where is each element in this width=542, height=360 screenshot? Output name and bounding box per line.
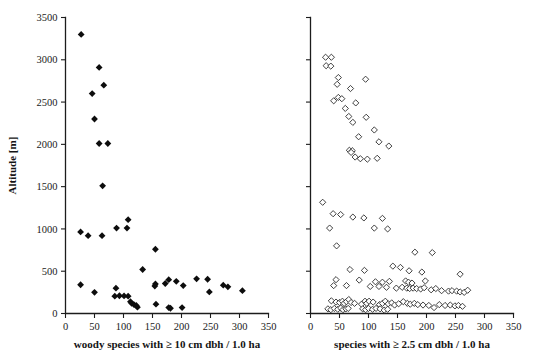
data-point <box>100 82 107 89</box>
data-point <box>371 225 377 231</box>
data-point <box>419 269 425 275</box>
data-point <box>96 64 103 71</box>
data-point <box>353 100 359 106</box>
data-point <box>153 301 160 308</box>
data-point <box>334 243 340 249</box>
data-point <box>327 225 333 231</box>
x-tick-label-0: 0 <box>308 321 313 332</box>
data-point <box>371 127 377 133</box>
data-point <box>173 278 180 285</box>
data-point <box>350 119 356 125</box>
data-point <box>89 90 96 97</box>
data-point <box>99 232 106 239</box>
data-point <box>390 263 396 269</box>
y-tick-label-1: 500 <box>42 266 58 277</box>
data-point <box>333 277 339 283</box>
x-tick-label-4: 200 <box>419 321 435 332</box>
figure-container: 0500100015002000250030003500050100150200… <box>0 0 542 360</box>
data-point <box>180 282 187 289</box>
y-tick-label-3: 1500 <box>37 181 58 192</box>
data-point <box>152 246 159 253</box>
data-point <box>429 250 435 256</box>
x-tick-label-2: 100 <box>116 321 132 332</box>
y-tick-label-5: 2500 <box>37 97 58 108</box>
data-point <box>436 302 442 308</box>
data-point <box>330 211 336 217</box>
data-point <box>364 156 370 162</box>
data-point <box>363 76 369 82</box>
x-tick-label-7: 350 <box>506 321 522 332</box>
y-tick-label-6: 3000 <box>37 54 58 65</box>
data-point <box>383 284 389 290</box>
data-point <box>204 276 211 283</box>
data-point <box>328 63 334 69</box>
data-point <box>343 282 349 288</box>
data-point <box>393 285 399 291</box>
data-point <box>363 114 369 120</box>
data-point <box>331 282 337 288</box>
scatter-figure: 0500100015002000250030003500050100150200… <box>0 0 542 360</box>
data-point <box>77 281 84 288</box>
x-tick-label-7: 350 <box>261 321 277 332</box>
data-point <box>385 226 391 232</box>
y-tick-label-0: 0 <box>52 308 57 319</box>
x-axis-title-left: woody species with ≥ 10 cm dbh / 1.0 ha <box>74 338 261 350</box>
data-point <box>361 267 367 273</box>
data-point <box>113 285 120 292</box>
x-tick-label-4: 200 <box>174 321 190 332</box>
data-point <box>125 216 132 223</box>
data-point <box>367 283 373 289</box>
x-tick-label-3: 150 <box>390 321 406 332</box>
data-point <box>193 275 200 282</box>
data-point <box>338 211 344 217</box>
data-point <box>422 278 428 284</box>
data-point <box>406 268 412 274</box>
data-point <box>386 278 392 284</box>
data-point <box>85 232 92 239</box>
x-tick-label-2: 100 <box>361 321 377 332</box>
y-tick-label-4: 2000 <box>37 139 58 150</box>
panel-left: 0500100015002000250030003500050100150200… <box>6 12 276 349</box>
data-point <box>356 277 362 283</box>
data-point <box>361 215 367 221</box>
data-point <box>347 266 353 272</box>
x-axis-title-right: species with ≥ 2.5 cm dbh / 1.0 ha <box>334 338 490 350</box>
x-tick-label-1: 50 <box>334 321 345 332</box>
data-point <box>96 140 103 147</box>
data-point <box>328 54 334 60</box>
data-point <box>139 266 146 273</box>
x-tick-label-0: 0 <box>63 321 68 332</box>
data-point <box>78 31 85 38</box>
y-tick-label-7: 3500 <box>37 12 58 23</box>
y-axis-title: Altitude [m] <box>6 137 18 195</box>
data-point <box>372 279 378 285</box>
data-point <box>346 113 352 119</box>
x-tick-label-5: 250 <box>448 321 464 332</box>
data-point <box>457 271 463 277</box>
data-point <box>77 228 84 235</box>
data-points-left <box>77 31 246 312</box>
x-tick-label-6: 300 <box>232 321 248 332</box>
data-point <box>91 289 98 296</box>
data-point <box>347 85 353 91</box>
data-points-right <box>320 54 471 313</box>
x-tick-label-5: 250 <box>203 321 219 332</box>
data-point <box>206 289 213 296</box>
data-point <box>374 155 380 161</box>
data-point <box>113 225 120 232</box>
data-point <box>334 81 340 87</box>
y-tick-label-2: 1000 <box>37 224 58 235</box>
data-point <box>320 199 326 205</box>
data-point <box>376 139 382 145</box>
data-point <box>91 116 98 123</box>
data-point <box>99 182 106 189</box>
data-point <box>412 249 418 255</box>
x-tick-label-3: 150 <box>145 321 161 332</box>
data-point <box>386 143 392 149</box>
data-point <box>356 134 362 140</box>
data-point <box>379 215 385 221</box>
data-point <box>335 74 341 80</box>
x-tick-label-1: 50 <box>89 321 100 332</box>
data-point <box>420 302 426 308</box>
x-tick-label-6: 300 <box>477 321 493 332</box>
